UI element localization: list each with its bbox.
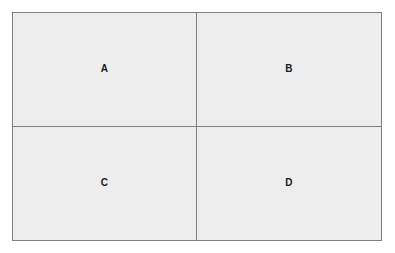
quadrant-label-b: B <box>285 64 292 74</box>
quadrant-cell-c[interactable]: C <box>13 127 197 241</box>
diagram-canvas: A B C D <box>0 0 395 253</box>
quadrant-label-d: D <box>285 178 292 188</box>
quadrant-grid: A B C D <box>12 12 382 241</box>
quadrant-label-a: A <box>101 64 108 74</box>
quadrant-cell-a[interactable]: A <box>13 13 197 127</box>
quadrant-cell-b[interactable]: B <box>197 13 381 127</box>
quadrant-label-c: C <box>101 178 108 188</box>
quadrant-cell-d[interactable]: D <box>197 127 381 241</box>
